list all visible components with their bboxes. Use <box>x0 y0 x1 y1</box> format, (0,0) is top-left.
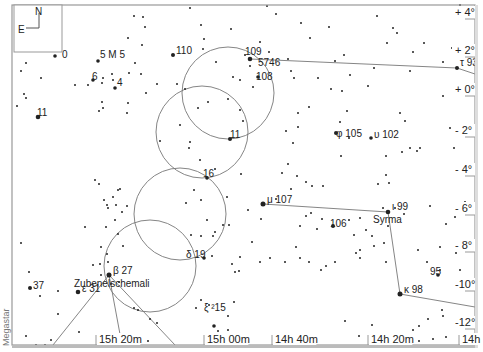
dec-tick-label: - 2° <box>455 124 472 136</box>
star <box>222 224 224 226</box>
star <box>398 292 403 297</box>
ra-tick-label: 15h 00m <box>207 333 250 345</box>
star <box>200 199 202 201</box>
star <box>188 147 190 149</box>
star <box>25 97 27 99</box>
star <box>76 290 81 295</box>
star <box>385 261 387 263</box>
star <box>341 90 343 92</box>
star <box>50 339 52 341</box>
star <box>126 112 128 114</box>
star <box>189 141 191 143</box>
star <box>419 147 421 149</box>
star <box>325 265 327 267</box>
star <box>107 273 112 278</box>
star <box>107 261 109 263</box>
star <box>442 95 444 97</box>
star-label: 11 <box>230 129 241 140</box>
star <box>453 147 455 149</box>
star <box>359 257 361 259</box>
star <box>117 189 119 191</box>
star <box>100 274 102 276</box>
ra-tick-label: 14h 20m <box>371 333 414 345</box>
star <box>195 307 197 309</box>
dec-tick-label: - 4° <box>455 163 472 175</box>
star <box>190 234 192 236</box>
star <box>100 246 102 248</box>
star <box>293 77 295 79</box>
star <box>57 290 59 292</box>
dec-axis: + 4°+ 2°+ 0°- 2°- 4°- 6°- 8°-10°-12° <box>452 6 475 329</box>
star <box>207 101 209 103</box>
star <box>185 202 187 204</box>
star <box>308 261 310 263</box>
star-label: 11 <box>37 107 48 118</box>
star <box>230 28 232 30</box>
star <box>200 299 202 301</box>
star <box>371 324 373 326</box>
star <box>284 261 286 263</box>
star <box>353 234 355 236</box>
star <box>184 88 186 90</box>
star <box>346 110 348 112</box>
star <box>140 73 142 75</box>
star <box>455 66 459 70</box>
star <box>242 120 244 122</box>
star <box>39 295 41 297</box>
ra-tick-label: 14h <box>462 333 480 345</box>
star <box>290 70 292 72</box>
star-label: ε 31 <box>82 283 101 294</box>
star <box>376 15 378 17</box>
star-label: δ 19 <box>186 249 206 260</box>
star <box>449 127 451 129</box>
compass-north-label: N <box>35 6 42 17</box>
star <box>412 51 414 53</box>
star-label: 106 <box>330 218 347 229</box>
compass-east-label: E <box>18 24 25 35</box>
star <box>84 226 86 228</box>
dec-tick-label: + 2° <box>455 44 475 56</box>
star <box>133 15 135 17</box>
star <box>214 231 216 233</box>
star <box>25 62 27 64</box>
star <box>305 181 307 183</box>
star <box>127 37 129 39</box>
star-label: 5 M 5 <box>100 49 125 60</box>
star <box>28 271 30 273</box>
star <box>305 215 307 217</box>
star <box>371 235 373 237</box>
dec-tick-label: + 0° <box>455 83 475 95</box>
star <box>121 211 123 213</box>
star <box>111 73 113 75</box>
star <box>212 324 216 328</box>
star <box>240 173 242 175</box>
bottom-shadow <box>12 345 476 348</box>
dec-tick-label: + 4° <box>455 6 475 18</box>
star <box>377 183 379 185</box>
star <box>249 65 251 67</box>
star <box>344 320 346 322</box>
star <box>74 84 76 86</box>
star <box>126 205 128 207</box>
star <box>409 147 411 149</box>
star <box>106 204 108 206</box>
star <box>297 126 299 128</box>
star <box>259 41 261 43</box>
star <box>200 24 202 26</box>
star <box>149 318 151 320</box>
star <box>442 61 444 63</box>
star-chart: 05 M 5641111010957461081116δ 19β 27Zuben… <box>0 0 483 352</box>
star <box>388 182 390 184</box>
star <box>343 54 345 56</box>
star <box>259 261 261 263</box>
star <box>454 216 456 218</box>
star <box>141 44 143 46</box>
star <box>144 26 146 28</box>
star <box>445 223 447 225</box>
dec-tick-label: - 8° <box>455 239 472 251</box>
star <box>416 150 418 152</box>
credit-label: Megastar <box>1 308 11 346</box>
star <box>134 62 136 64</box>
star <box>20 70 22 72</box>
star <box>228 224 230 226</box>
